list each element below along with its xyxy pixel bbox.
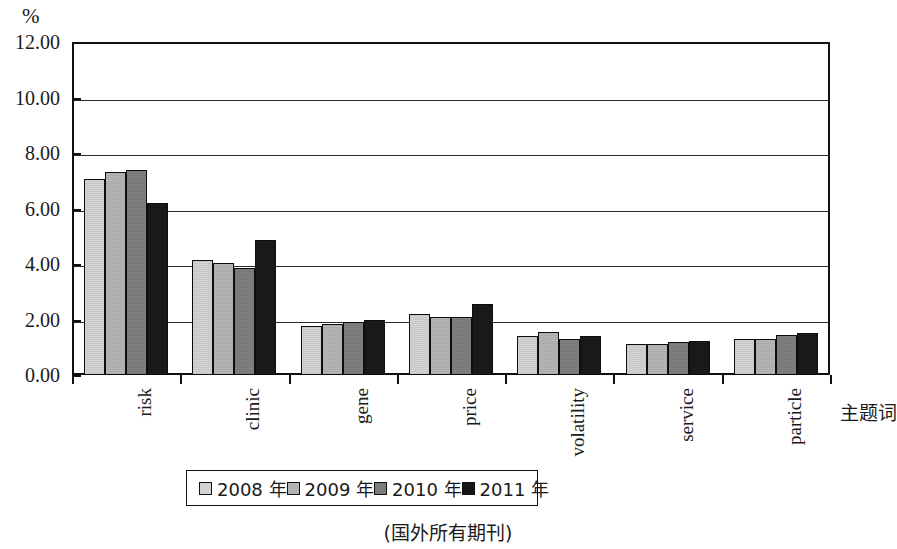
y-axis-tick-label: 8.00 <box>0 143 60 163</box>
x-axis-category-label: price <box>460 388 479 426</box>
legend-swatch-icon <box>462 482 475 495</box>
x-axis-category-label: clinic <box>243 388 262 430</box>
bar <box>797 333 818 375</box>
x-axis-category-label: gene <box>352 388 371 424</box>
bar <box>472 304 493 375</box>
bar <box>538 332 559 375</box>
y-axis-tick-label: 6.00 <box>0 199 60 219</box>
y-axis-tick-label: 2.00 <box>0 310 60 330</box>
bar <box>147 203 168 375</box>
legend-swatch-icon <box>199 482 212 495</box>
bar-group <box>734 42 818 375</box>
x-axis-tick-mark <box>289 375 291 384</box>
bar <box>734 339 755 375</box>
bar <box>776 335 797 375</box>
legend-label: 2008 年 <box>217 475 287 501</box>
y-axis-tick-label: 0.00 <box>0 365 60 385</box>
bar-group <box>192 42 276 375</box>
bar <box>689 341 710 375</box>
legend-label: 2009 年 <box>305 475 375 501</box>
x-axis-tick-mark <box>505 375 507 384</box>
bar <box>301 326 322 375</box>
legend-item[interactable]: 2011 年 <box>462 475 550 501</box>
x-axis-title: 主题词 <box>840 398 897 425</box>
legend-label: 2010 年 <box>392 475 462 501</box>
bar <box>126 170 147 375</box>
bar <box>430 317 451 375</box>
y-axis-tick-label: 10.00 <box>0 88 60 108</box>
bar <box>580 336 601 375</box>
y-axis-tick-label: 4.00 <box>0 254 60 274</box>
bar <box>451 317 472 375</box>
legend-swatch-icon <box>374 482 387 495</box>
legend-item[interactable]: 2009 年 <box>287 475 375 501</box>
bar <box>755 339 776 375</box>
legend-item[interactable]: 2008 年 <box>199 475 287 501</box>
bar-group <box>301 42 385 375</box>
bar <box>626 344 647 375</box>
bar-group <box>626 42 710 375</box>
bar <box>213 263 234 375</box>
bar <box>192 260 213 375</box>
y-axis-tick-label: 12.00 <box>0 32 60 52</box>
x-axis-tick-mark <box>613 375 615 384</box>
bar <box>647 344 668 375</box>
bar <box>364 320 385 376</box>
bar <box>84 179 105 375</box>
x-axis-tick-mark <box>722 375 724 384</box>
bar <box>668 342 689 375</box>
y-axis-unit-label: % <box>22 4 40 29</box>
legend: 2008 年2009 年2010 年2011 年 <box>186 470 538 506</box>
x-axis-tick-mark <box>72 375 74 384</box>
bar-group <box>517 42 601 375</box>
x-axis-category-label: service <box>677 388 696 442</box>
figure-caption: (国外所有期刊) <box>0 518 896 545</box>
x-axis-tick-mark <box>397 375 399 384</box>
x-axis-category-label: risk <box>135 388 154 417</box>
legend-item[interactable]: 2010 年 <box>374 475 462 501</box>
x-axis-category-label: volatility <box>568 388 587 457</box>
bar <box>517 336 538 375</box>
bar <box>343 322 364 375</box>
bar-group <box>84 42 168 375</box>
x-axis-tick-mark <box>830 375 832 384</box>
x-axis-tick-mark <box>180 375 182 384</box>
x-axis-category-label: particle <box>785 388 804 445</box>
bar <box>322 324 343 375</box>
bar-group <box>409 42 493 375</box>
bar <box>409 314 430 375</box>
bar <box>105 172 126 375</box>
legend-swatch-icon <box>287 482 300 495</box>
bar <box>559 339 580 375</box>
bar <box>255 240 276 375</box>
bar <box>234 268 255 375</box>
bars-layer <box>72 42 830 375</box>
legend-label: 2011 年 <box>480 475 550 501</box>
